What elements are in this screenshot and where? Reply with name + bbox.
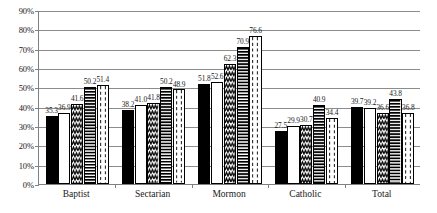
bar-value-label: 38.2 bbox=[122, 101, 135, 108]
bar-value-label: 48.9 bbox=[173, 81, 186, 88]
plot-area: 35.336.941.650.251.438.241.041.850.248.9… bbox=[38, 11, 420, 185]
y-axis-tick-label: 10% bbox=[0, 161, 34, 170]
y-axis-tick-label: 90% bbox=[0, 7, 34, 16]
bar[interactable] bbox=[84, 87, 96, 184]
bar[interactable] bbox=[326, 118, 338, 185]
bar[interactable] bbox=[147, 103, 159, 184]
bar[interactable] bbox=[135, 105, 147, 184]
bar-value-label: 62.3 bbox=[224, 55, 237, 62]
bar-group: 51.852.662.370.976.6 bbox=[192, 11, 268, 184]
bar[interactable] bbox=[71, 104, 83, 184]
bar-value-label: 29.9 bbox=[287, 117, 300, 124]
bar-value-label: 30.7 bbox=[300, 116, 313, 123]
x-axis-category-label: Baptist bbox=[63, 190, 90, 200]
x-axis-category-labels: BaptistSectarianMormonCatholicTotal bbox=[38, 190, 420, 208]
bar[interactable] bbox=[313, 105, 325, 184]
bar-value-label: 41.0 bbox=[135, 96, 148, 103]
bar[interactable] bbox=[402, 113, 414, 184]
y-axis-tick-label: 80% bbox=[0, 26, 34, 35]
y-axis-tickmark bbox=[35, 185, 39, 186]
bar-value-label: 51.8 bbox=[198, 75, 211, 82]
bar-value-label: 41.6 bbox=[71, 95, 84, 102]
bar-value-label: 50.2 bbox=[160, 78, 173, 85]
bar-value-label: 41.8 bbox=[147, 94, 160, 101]
x-axis-category-label: Catholic bbox=[289, 190, 321, 200]
bar-value-label: 52.6 bbox=[211, 73, 224, 80]
y-axis-tick-label: 20% bbox=[0, 142, 34, 151]
bar-value-label: 36.9 bbox=[58, 104, 71, 111]
y-axis-tick-label: 50% bbox=[0, 84, 34, 93]
bar[interactable] bbox=[300, 125, 312, 184]
bar[interactable] bbox=[224, 64, 236, 184]
bar[interactable] bbox=[198, 84, 210, 184]
bar-value-label: 34.4 bbox=[326, 109, 339, 116]
bar[interactable] bbox=[237, 47, 249, 184]
x-axis-category-label: Sectarian bbox=[135, 190, 170, 200]
bar[interactable] bbox=[287, 126, 299, 184]
y-axis-tick-label: 60% bbox=[0, 65, 34, 74]
bar[interactable] bbox=[58, 113, 70, 184]
bar-group: 38.241.041.850.248.9 bbox=[115, 11, 191, 184]
bar-value-label: 35.3 bbox=[45, 107, 58, 114]
bar-value-label: 27.5 bbox=[275, 122, 288, 129]
x-axis-tickmark bbox=[268, 184, 269, 188]
bar[interactable] bbox=[97, 85, 109, 184]
bar[interactable] bbox=[122, 110, 134, 184]
bar-group: 35.336.941.650.251.4 bbox=[39, 11, 115, 184]
bar-value-label: 70.9 bbox=[237, 38, 250, 45]
bar-chart: 0%10%20%30%40%50%60%70%80%90% 35.336.941… bbox=[0, 0, 437, 213]
x-axis-category-label: Total bbox=[372, 190, 391, 200]
bar-value-label: 36.6 bbox=[377, 104, 390, 111]
bar-value-label: 39.2 bbox=[364, 99, 377, 106]
x-axis-tickmark bbox=[192, 184, 193, 188]
bar-value-label: 36.8 bbox=[402, 104, 415, 111]
y-axis-tick-label: 70% bbox=[0, 45, 34, 54]
bar[interactable] bbox=[173, 89, 185, 184]
bar[interactable] bbox=[377, 113, 389, 184]
bar[interactable] bbox=[389, 99, 401, 184]
y-axis-tick-label: 30% bbox=[0, 123, 34, 132]
y-axis: 0%10%20%30%40%50%60%70%80%90% bbox=[0, 0, 34, 213]
bar-value-label: 43.8 bbox=[389, 90, 402, 97]
bar[interactable] bbox=[249, 36, 261, 184]
bar-value-label: 76.6 bbox=[249, 27, 262, 34]
x-axis-tickmark bbox=[345, 184, 346, 188]
bar-group: 39.739.236.643.836.8 bbox=[345, 11, 421, 184]
x-axis-tickmark bbox=[115, 184, 116, 188]
y-axis-tick-label: 0% bbox=[0, 181, 34, 190]
bar-value-label: 51.4 bbox=[97, 76, 110, 83]
bar[interactable] bbox=[351, 107, 363, 184]
y-axis-tick-label: 40% bbox=[0, 103, 34, 112]
bar[interactable] bbox=[160, 87, 172, 184]
bar-group: 27.529.930.740.934.4 bbox=[268, 11, 344, 184]
bar-value-label: 39.7 bbox=[351, 98, 364, 105]
bar-value-label: 50.2 bbox=[84, 78, 97, 85]
bar-value-label: 40.9 bbox=[313, 96, 326, 103]
bar[interactable] bbox=[275, 131, 287, 184]
bar[interactable] bbox=[364, 108, 376, 184]
bar[interactable] bbox=[211, 82, 223, 184]
x-axis-category-label: Mormon bbox=[212, 190, 245, 200]
bar[interactable] bbox=[46, 116, 58, 184]
